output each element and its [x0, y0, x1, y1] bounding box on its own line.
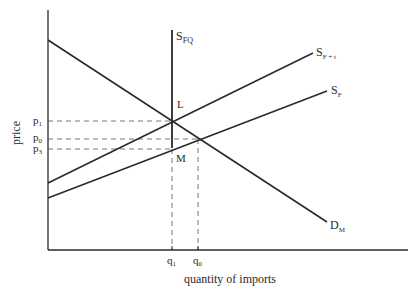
quota-supply-label: SFQ	[176, 29, 193, 45]
price-tick-p1: p1	[33, 114, 43, 128]
foreign-supply-label: SF	[331, 83, 342, 99]
point-m-label: M	[176, 152, 186, 164]
tariff-supply-label: SF + t	[316, 45, 336, 61]
point-l-label: L	[177, 98, 184, 110]
y-axis-label: price	[9, 121, 23, 145]
x-axis-label: quantity of imports	[184, 272, 276, 286]
quantity-tick-q1: q1	[167, 254, 177, 268]
diagram-canvas: SFQ SF + t SF DM L M p1 p0 p3 q1 q0 quan…	[0, 0, 417, 298]
quantity-tick-q0: q0	[193, 254, 203, 268]
foreign-supply-curve	[48, 91, 327, 198]
demand-label: DM	[330, 218, 346, 234]
